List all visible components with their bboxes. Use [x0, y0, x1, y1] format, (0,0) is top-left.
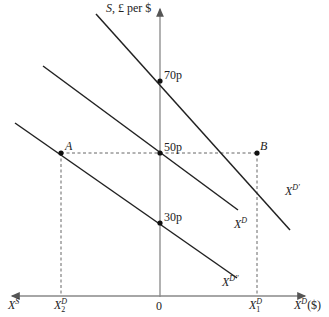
price-label-30p: 30p	[164, 211, 182, 223]
curve-xd-double-prime	[15, 123, 237, 278]
exchange-rate-diagram: S, £ per $ 70p 50p 30p A B XD' XD XD'' X…	[0, 0, 329, 317]
x-tick-x2d: XD2	[54, 299, 65, 311]
price-label-70p: 70p	[164, 69, 182, 81]
x-axis-label: XD($)	[294, 299, 321, 311]
curve-label-xd-prime: XD'	[285, 185, 300, 197]
point-label-b: B	[260, 140, 267, 152]
point-b	[254, 150, 259, 155]
point-a	[58, 150, 63, 155]
x-tick-x1d: XD1	[249, 299, 260, 311]
point-label-a: A	[65, 140, 72, 152]
price-label-50p: 50p	[164, 141, 182, 153]
curve-label-xd-double-prime: XD''	[222, 276, 239, 288]
curve-xd	[43, 66, 238, 210]
point-50p	[157, 150, 162, 155]
curve-xd-prime	[96, 14, 290, 230]
y-axis-label: S, £ per $	[106, 2, 151, 14]
curve-label-xd: XD	[234, 218, 247, 230]
x-axis-left-label: XS	[8, 299, 19, 311]
origin-label: 0	[156, 300, 162, 312]
point-70p	[157, 78, 162, 83]
diagram-graphics	[0, 0, 329, 317]
point-30p	[157, 220, 162, 225]
